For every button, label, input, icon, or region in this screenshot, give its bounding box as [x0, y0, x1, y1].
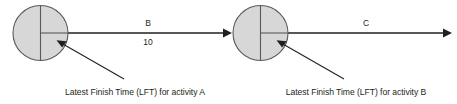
lft-annotation-b-pointer — [277, 40, 345, 79]
activity-arrow-c-label: C — [363, 18, 369, 28]
activity-arrow-c-group — [261, 28, 453, 37]
event-node-b — [233, 6, 288, 61]
activity-arrow-b-arrowhead — [223, 28, 232, 37]
network-diagram: B 10 C Latest Finish Time (LFT) for acti… — [0, 0, 457, 104]
lft-annotation-a-pointer-line — [62, 44, 124, 80]
lft-annotation-a-caption: Latest Finish Time (LFT) for activity A — [65, 87, 205, 97]
diagram-canvas: B 10 C Latest Finish Time (LFT) for acti… — [0, 0, 457, 104]
activity-arrow-b-duration: 10 — [143, 37, 153, 47]
lft-annotation-a-pointer — [57, 40, 125, 79]
event-node-a — [13, 6, 68, 61]
activity-arrow-c-arrowhead — [443, 28, 452, 37]
lft-annotation-b-caption: Latest Finish Time (LFT) for activity B — [286, 87, 427, 97]
lft-annotation-b-pointer-line — [282, 44, 344, 80]
activity-arrow-b-label: B — [145, 18, 151, 28]
activity-arrow-b-group — [41, 28, 233, 37]
